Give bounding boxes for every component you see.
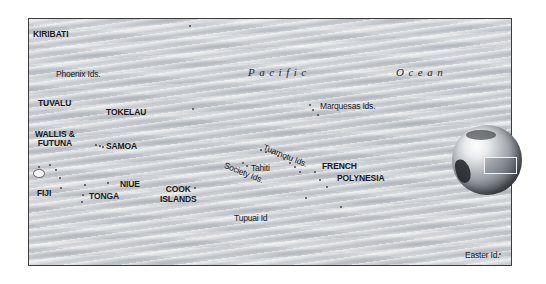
label-phoenix-ids: Phoenix Ids. bbox=[56, 70, 100, 79]
locator-rectangle bbox=[484, 157, 517, 174]
label-tonga: TONGA bbox=[89, 192, 119, 201]
label-samoa: SAMOA bbox=[106, 142, 137, 151]
label-french-polynesia-line1: FRENCH bbox=[322, 162, 357, 171]
label-cook-islands-line1: COOK bbox=[160, 184, 197, 194]
label-cook-islands-line2: ISLANDS bbox=[160, 194, 197, 204]
label-niue: NIUE bbox=[120, 180, 140, 189]
label-french-polynesia-line2: POLYNESIA bbox=[337, 174, 384, 183]
label-marquesas-ids: Marquesas Ids. bbox=[320, 102, 375, 111]
map-frame: KIRIBATI TUVALU TOKELAU WALLIS & FUTUNA … bbox=[28, 18, 512, 266]
label-tuvalu: TUVALU bbox=[38, 99, 71, 108]
label-tokelau: TOKELAU bbox=[106, 108, 146, 117]
label-tupuai-id: Tupuai Id bbox=[234, 214, 267, 223]
label-wallis-futuna: WALLIS & FUTUNA bbox=[35, 130, 75, 148]
label-easter-id: Easter Id. bbox=[465, 251, 499, 260]
label-ocean: Ocean bbox=[396, 67, 447, 78]
fiji-island-shape bbox=[33, 169, 45, 178]
label-cook-islands: COOK ISLANDS bbox=[160, 184, 197, 204]
label-fiji: FIJI bbox=[37, 189, 51, 198]
label-kiribati: KIRIBATI bbox=[33, 30, 68, 39]
label-pacific: Pacific bbox=[248, 67, 311, 78]
label-wallis-futuna-line2: FUTUNA bbox=[35, 139, 75, 148]
